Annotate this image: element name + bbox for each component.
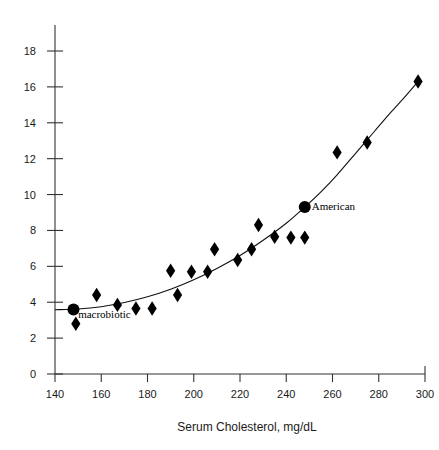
y-tick-label: 12	[24, 153, 36, 165]
x-tick-label: 220	[231, 388, 249, 400]
data-point-diamond	[187, 265, 196, 279]
x-tick-label: 300	[416, 388, 434, 400]
data-point-markers	[71, 74, 422, 331]
x-tick-label: 240	[277, 388, 295, 400]
x-tick-label: 160	[92, 388, 110, 400]
data-point-diamond	[270, 230, 279, 244]
x-axis-title: Serum Cholesterol, mg/dL	[177, 420, 317, 434]
y-tick-label: 8	[30, 224, 36, 236]
x-tick-label: 140	[46, 388, 64, 400]
data-point-diamond	[300, 230, 309, 244]
x-tick-label: 260	[323, 388, 341, 400]
y-tick-label: 10	[24, 189, 36, 201]
y-tick-label: 4	[30, 296, 36, 308]
data-point-diamond	[247, 242, 256, 256]
x-tick-label: 200	[185, 388, 203, 400]
y-tick-label: 18	[24, 45, 36, 57]
data-point-diamond	[203, 265, 212, 279]
y-axis-tick-labels: 024681012141618	[24, 45, 36, 380]
data-point-diamond	[333, 145, 342, 159]
axes	[55, 25, 425, 374]
x-axis-ticks	[55, 374, 425, 382]
data-point-diamond	[148, 301, 157, 315]
data-point-diamond	[131, 301, 140, 315]
data-point-diamond	[173, 288, 182, 302]
data-point-diamond	[210, 242, 219, 256]
y-tick-label: 0	[30, 368, 36, 380]
highlighted-point-circle	[299, 201, 311, 213]
data-point-diamond	[254, 218, 263, 232]
data-point-diamond	[413, 74, 422, 88]
data-point-diamond	[286, 230, 295, 244]
point-annotation-label: macrobiotic	[78, 308, 131, 320]
chart-container: 140160180200220240260280300 024681012141…	[0, 0, 439, 450]
data-point-diamond	[166, 264, 175, 278]
y-tick-label: 14	[24, 117, 36, 129]
fit-curve-path	[55, 82, 418, 310]
y-tick-label: 16	[24, 81, 36, 93]
point-annotation-label: American	[312, 200, 356, 212]
y-tick-label: 2	[30, 332, 36, 344]
x-axis-tick-labels: 140160180200220240260280300	[46, 388, 434, 400]
x-tick-label: 180	[138, 388, 156, 400]
scatter-plot: 140160180200220240260280300 024681012141…	[0, 0, 439, 450]
highlighted-point-markers	[68, 201, 311, 315]
y-tick-label: 6	[30, 260, 36, 272]
fitted-curve	[55, 82, 418, 310]
data-point-diamond	[363, 135, 372, 149]
x-tick-label: 280	[370, 388, 388, 400]
data-point-diamond	[92, 288, 101, 302]
